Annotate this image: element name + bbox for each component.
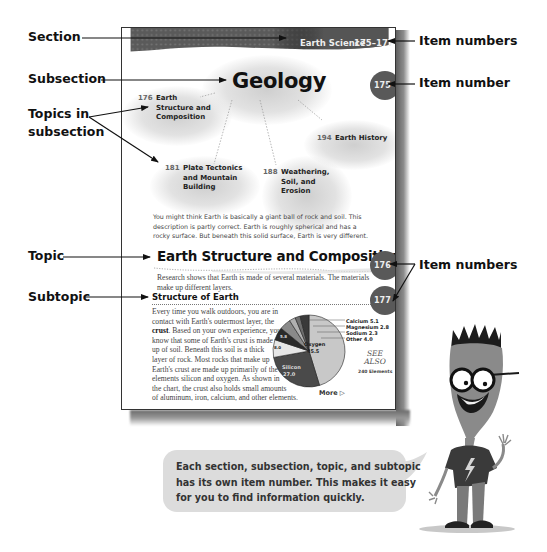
callout-item-numbers-top: Item numbers bbox=[419, 33, 517, 48]
subtopic-dotted-rule bbox=[152, 304, 377, 305]
topic-label-line: Earth bbox=[156, 94, 211, 104]
bold-term-crust: crust bbox=[152, 326, 168, 335]
topic-item-number-disc: 176 bbox=[370, 251, 396, 280]
callout-topics-line1: Topics in bbox=[28, 106, 89, 121]
page-shadow-bottom bbox=[130, 410, 410, 426]
topic-label-line: Earth History bbox=[335, 134, 387, 144]
see-also-label: ALSO bbox=[358, 358, 392, 366]
bubble-line: for you to find information quickly. bbox=[176, 490, 421, 506]
topic-intro-line: make up different layers. bbox=[157, 283, 369, 293]
callout-subsection: Subsection bbox=[28, 71, 106, 86]
topic-label-line: Soil, and bbox=[281, 178, 330, 188]
pie-outside-legend: Calcium 5.1 Magnesium 2.8 Sodium 2.3 Oth… bbox=[346, 318, 389, 342]
topic-intro: Research shows that Earth is made of sev… bbox=[157, 273, 369, 292]
topic-title: Earth Structure and Composition bbox=[157, 248, 396, 264]
pie-value-oxygen: 45.5 bbox=[307, 348, 319, 354]
topic-label-line: Weathering, bbox=[281, 168, 330, 178]
topic-label-line: and Mountain bbox=[183, 174, 242, 184]
speech-bubble-text: Each section, subsection, topic, and sub… bbox=[176, 459, 421, 506]
topic-label-line: Building bbox=[183, 183, 242, 193]
subtopic-title: Structure of Earth bbox=[152, 292, 239, 302]
topic-label-line: Structure and bbox=[156, 104, 211, 114]
subtopic-item-number-disc: 177 bbox=[370, 286, 396, 315]
callout-item-numbers-mid: Item numbers bbox=[419, 257, 517, 272]
callout-topic: Topic bbox=[28, 248, 64, 263]
subsection-item-number: 175 bbox=[374, 81, 391, 90]
topic-label-line: Composition bbox=[156, 113, 211, 123]
topic-number: 194 bbox=[317, 134, 332, 142]
intro-line: rocky surface. But beneath this solid su… bbox=[153, 231, 373, 241]
bubble-line: Each section, subsection, topic, and sub… bbox=[176, 459, 421, 475]
topic-number: 176 bbox=[138, 94, 153, 102]
see-also-link[interactable]: SEE ALSO 240 Elements bbox=[358, 350, 392, 374]
topic-intro-line: Research shows that Earth is made of sev… bbox=[157, 273, 369, 283]
body-line-rest: . Based on your own experience, you bbox=[168, 326, 281, 335]
subsection-intro: You might think Earth is basically a gia… bbox=[153, 212, 373, 241]
pie-value-aluminum: 8.0 bbox=[274, 345, 281, 350]
intro-line: You might think Earth is basically a gia… bbox=[153, 212, 373, 222]
sample-page: Earth Science 175–177 Geology 175 176 Ea… bbox=[121, 27, 396, 410]
subtopic-item-number: 177 bbox=[374, 296, 391, 305]
pie-value-iron: 5.8 bbox=[280, 334, 287, 339]
mascot-character-illustration bbox=[415, 320, 547, 540]
page-shadow-right bbox=[396, 30, 410, 426]
intro-line: description is partly correct. Earth is … bbox=[153, 222, 373, 232]
body-line: of aluminum, iron, calcium, and other el… bbox=[152, 393, 298, 403]
concept-map-connectors bbox=[122, 28, 396, 228]
callout-topics-line2: subsection bbox=[28, 124, 104, 139]
subsection-title: Geology bbox=[232, 69, 326, 93]
topic-item-number: 176 bbox=[374, 261, 391, 270]
topic-label-line: Erosion bbox=[281, 187, 330, 197]
callout-section: Section bbox=[28, 29, 81, 44]
bubble-line: has its own item number. This makes it e… bbox=[176, 475, 421, 491]
pie-leader-lines bbox=[307, 318, 347, 342]
legend-other: Other 4.0 bbox=[346, 336, 389, 342]
topic-number: 188 bbox=[263, 168, 278, 176]
see-also-ref: 240 Elements bbox=[358, 369, 392, 374]
pie-label-silicon: Silicon bbox=[282, 364, 301, 370]
topic-label-line: Plate Tectonics bbox=[183, 164, 242, 174]
topic-number: 181 bbox=[165, 164, 180, 172]
callout-subtopic: Subtopic bbox=[28, 289, 90, 304]
subsection-item-number-disc: 175 bbox=[370, 71, 396, 100]
callout-item-number: Item number bbox=[419, 75, 510, 90]
more-link[interactable]: More ▷ bbox=[319, 389, 345, 397]
pie-value-silicon: 27.0 bbox=[283, 371, 295, 377]
